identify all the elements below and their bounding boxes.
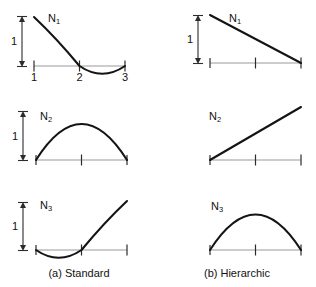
scale-value-standard-n2: 1: [12, 131, 18, 142]
plot-svg-standard-n2: [0, 95, 158, 190]
curve-hierarchic-n2: [210, 107, 301, 160]
curve-label-standard-n3: N3: [40, 200, 52, 211]
curve-label-sub: 2: [217, 115, 221, 124]
plot-standard-n1: N1 1 1 2 3: [0, 0, 158, 95]
curve-label-hierarchic-n1: N1: [229, 13, 241, 24]
plot-standard-n2: N2 1: [0, 95, 158, 190]
caption-standard: (a) Standard: [0, 267, 158, 279]
x-label-node-2: 2: [74, 72, 86, 83]
curve-label-sub: 3: [48, 204, 52, 213]
curve-label-sub: 2: [48, 115, 52, 124]
scale-value-standard-n3: 1: [12, 221, 18, 232]
curve-label-sub: 3: [219, 205, 223, 214]
column-hierarchic: N1 1 N2 N3: [158, 0, 316, 287]
curve-label-hierarchic-n3: N3: [211, 201, 223, 212]
curve-label-standard-n1: N1: [48, 13, 60, 24]
shape-function-figure: N1 1 1 2 3 N2 1: [0, 0, 316, 287]
curve-label-standard-n2: N2: [40, 111, 52, 122]
column-standard: N1 1 1 2 3 N2 1: [0, 0, 158, 287]
scale-value-hierarchic-n1: 1: [187, 34, 193, 45]
plot-svg-hierarchic-n2: [158, 95, 316, 190]
curve-label-sub: 1: [56, 17, 60, 26]
caption-hierarchic: (b) Hierarchic: [158, 267, 316, 279]
curve-label-sub: 1: [237, 17, 241, 26]
x-label-node-1: 1: [28, 72, 40, 83]
scale-value-standard-n1: 1: [11, 36, 17, 47]
curve-hierarchic-n1: [210, 15, 301, 63]
curve-standard-n1: [34, 17, 125, 74]
x-label-node-3: 3: [119, 72, 131, 83]
plot-hierarchic-n1: N1 1: [158, 0, 316, 95]
plot-hierarchic-n2: N2: [158, 95, 316, 190]
curve-label-hierarchic-n2: N2: [209, 111, 221, 122]
